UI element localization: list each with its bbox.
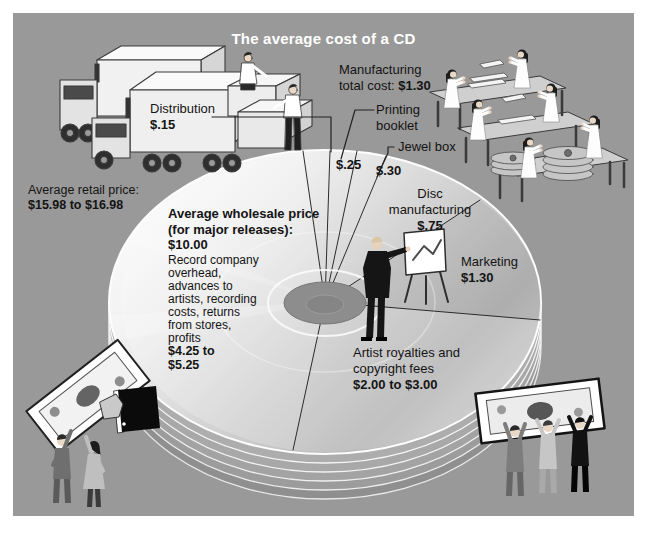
infographic-cd-cost: The average cost of a CD Average retail … <box>0 0 647 540</box>
manufacturing-total-line2: total cost: $1.30 <box>339 78 431 94</box>
manufacturing-total-value: $1.30 <box>398 78 431 93</box>
printing-booklet-label: Printing booklet <box>376 102 420 134</box>
disc-mfg-value: $.75 <box>384 218 476 234</box>
infographic-artwork <box>0 0 647 540</box>
printing-line1: Printing <box>376 102 420 118</box>
disc-mfg-line2: manufacturing <box>384 202 476 218</box>
chart-title: The average cost of a CD <box>13 30 634 47</box>
marketing-value: $1.30 <box>461 270 518 286</box>
royalties-label: Artist royalties and copyright fees $2.0… <box>353 345 460 393</box>
jewel-value: $.30 <box>376 163 401 179</box>
jewel-box-label: Jewel box <box>398 139 456 155</box>
wholesale-line2: (for major releases): <box>168 222 319 238</box>
manufacturing-total-line1: Manufacturing <box>339 62 431 78</box>
wholesale-description: Record company overhead, advances to art… <box>168 254 259 345</box>
retail-price-label: Average retail price: $15.98 to $16.98 <box>28 183 139 213</box>
royalties-line2: copyright fees <box>353 361 460 377</box>
disc-mfg-line1: Disc <box>384 186 476 202</box>
printing-line2: booklet <box>376 118 420 134</box>
wholesale-price-label: Average wholesale price (for major relea… <box>168 206 319 253</box>
royalties-line1: Artist royalties and <box>353 345 460 361</box>
distribution-label: Distribution $.15 <box>150 101 215 133</box>
retail-price-caption: Average retail price: <box>28 183 139 198</box>
printing-value: $.25 <box>336 157 361 173</box>
record-company-value: $4.25 to $5.25 <box>168 344 215 372</box>
marketing-label: Marketing $1.30 <box>461 254 518 286</box>
record-company-value-line2: $5.25 <box>168 358 215 372</box>
distribution-value: $.15 <box>150 117 215 133</box>
manufacturing-total-label: Manufacturing total cost: $1.30 <box>339 62 431 94</box>
wholesale-line1: Average wholesale price <box>168 206 319 222</box>
retail-price-value: $15.98 to $16.98 <box>28 198 139 213</box>
record-company-value-line1: $4.25 to <box>168 344 215 358</box>
wholesale-value: $10.00 <box>168 237 319 253</box>
royalties-value: $2.00 to $3.00 <box>353 377 460 393</box>
marketing-caption: Marketing <box>461 254 518 270</box>
disc-manufacturing-label: Disc manufacturing $.75 <box>384 186 476 234</box>
easel-board <box>404 229 446 275</box>
distribution-caption: Distribution <box>150 101 215 117</box>
